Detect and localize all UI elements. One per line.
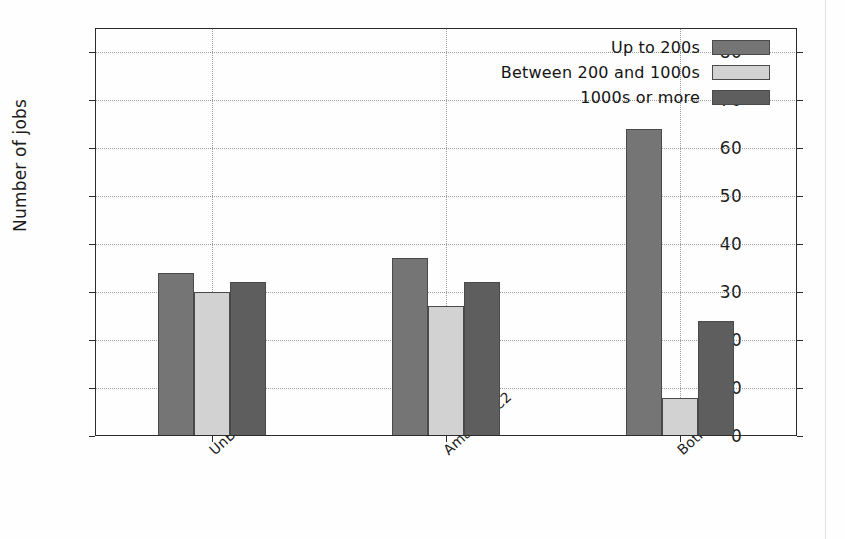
- x-axis-tick: [680, 436, 681, 442]
- y-axis-tick-right: [797, 100, 803, 101]
- y-axis-tick-right: [797, 292, 803, 293]
- y-axis-tick-right: [797, 244, 803, 245]
- y-axis-tick-right: [797, 388, 803, 389]
- y-axis-title: Number of jobs: [10, 99, 30, 232]
- legend: Up to 200s Between 200 and 1000s 1000s o…: [430, 36, 770, 111]
- page-margin-line: [825, 0, 826, 539]
- legend-label-0: Up to 200s: [611, 38, 700, 57]
- bar-chart-figure: Number of jobs 01020304050607080 UnBAmaz…: [0, 0, 845, 539]
- legend-label-1: Between 200 and 1000s: [501, 63, 700, 82]
- y-axis-tick-right: [797, 148, 803, 149]
- legend-entry-1: Between 200 and 1000s: [430, 61, 770, 84]
- legend-swatch-2: [712, 90, 770, 105]
- y-axis-tick-right: [797, 340, 803, 341]
- y-axis-tick: [89, 436, 95, 437]
- x-axis-tick: [446, 436, 447, 442]
- legend-swatch-1: [712, 65, 770, 80]
- y-axis-tick-right: [797, 52, 803, 53]
- y-axis-tick-right: [797, 196, 803, 197]
- x-axis-tick: [212, 436, 213, 442]
- legend-swatch-0: [712, 40, 770, 55]
- y-axis-tick-right: [797, 436, 803, 437]
- legend-label-2: 1000s or more: [580, 88, 700, 107]
- legend-entry-0: Up to 200s: [430, 36, 770, 59]
- legend-entry-2: 1000s or more: [430, 86, 770, 109]
